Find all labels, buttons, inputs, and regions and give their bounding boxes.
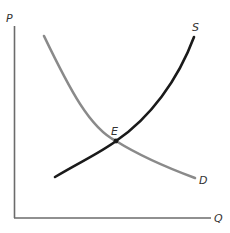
equilibrium-point bbox=[114, 139, 119, 144]
x-axis-label: Q bbox=[214, 212, 223, 225]
supply-demand-diagram: P Q D S E bbox=[0, 0, 230, 233]
demand-label: D bbox=[199, 174, 207, 187]
supply-label: S bbox=[192, 21, 199, 34]
equilibrium-label: E bbox=[111, 125, 118, 138]
supply-curve bbox=[55, 37, 194, 177]
y-axis-label: P bbox=[6, 12, 13, 25]
demand-curve bbox=[44, 36, 195, 178]
